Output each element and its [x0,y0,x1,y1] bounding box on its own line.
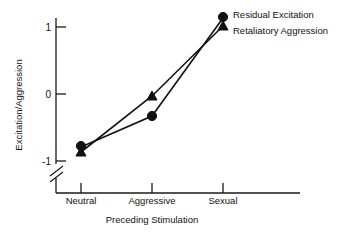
y-axis-title: Excitation/Aggression [13,59,24,150]
legend-label-residual-excitation: Residual Excitation [233,9,314,20]
x-category-label-aggressive: Aggressive [129,195,176,206]
series-line-residual-excitation [81,18,223,147]
y-tick-label-neg1: -1 [42,156,51,167]
y-tick-label-0: 0 [45,89,51,100]
legend-label-retaliatory-aggression: Retaliatory Aggression [233,25,328,36]
marker-circle-neutral [76,141,85,150]
marker-circle-sexual [218,12,227,21]
y-axis-break-mark-1 [50,166,63,176]
x-axis-title: Preceding Stimulation [106,214,198,225]
x-category-label-sexual: Sexual [208,195,237,206]
y-tick-label-1: 1 [45,22,51,33]
marker-circle-aggressive [147,111,156,120]
chart-figure: 1 0 -1 Neutral Aggressive Sexual Precedi… [0,0,339,232]
line-chart: 1 0 -1 Neutral Aggressive Sexual Precedi… [0,0,339,232]
series-line-retaliatory-aggression [81,26,223,152]
x-category-label-neutral: Neutral [66,195,97,206]
